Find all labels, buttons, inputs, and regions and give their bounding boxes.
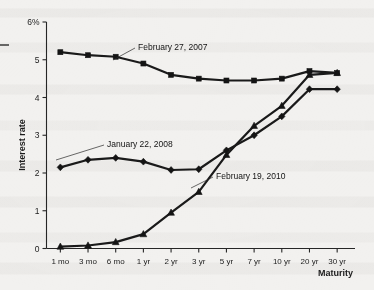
annotation-label-2008: January 22, 2008 — [107, 139, 173, 149]
x-tick-label: 30 yr — [328, 257, 346, 266]
data-point-marker-square — [86, 53, 91, 58]
series-2 — [57, 86, 340, 174]
x-tick-label: 1 yr — [137, 257, 151, 266]
y-tick-label: 5 — [35, 55, 40, 65]
annotation-label-2007: February 27, 2007 — [138, 42, 208, 52]
data-point-marker-diamond — [113, 155, 119, 162]
x-tick-label: 6 mo — [107, 257, 125, 266]
y-tick-label: 0 — [35, 244, 40, 254]
y-tick-label: 2 — [35, 168, 40, 178]
data-point-marker-diamond — [168, 167, 174, 174]
yield-curve-chart: 0123456% 1 mo3 mo6 mo1 yr2 yr3 yr5 yr7 y… — [0, 0, 374, 290]
x-tick-label: 2 yr — [164, 257, 178, 266]
y-axis-tick-labels: 0123456% — [27, 17, 40, 254]
y-tick-label: 4 — [35, 93, 40, 103]
x-axis-tick-labels: 1 mo3 mo6 mo1 yr2 yr3 yr5 yr7 yr10 yr20 … — [51, 257, 346, 266]
x-tick-label: 3 mo — [79, 257, 97, 266]
x-tick-label: 3 yr — [192, 257, 206, 266]
x-axis-title: Maturity — [318, 268, 353, 278]
x-tick-label: 5 yr — [220, 257, 234, 266]
x-tick-label: 1 mo — [51, 257, 69, 266]
data-point-marker-square — [224, 78, 229, 83]
x-tick-label: 10 yr — [273, 257, 291, 266]
data-point-marker-square — [169, 72, 174, 77]
x-tick-label: 20 yr — [301, 257, 319, 266]
series-layer — [57, 50, 341, 250]
data-point-marker-diamond — [334, 86, 340, 93]
x-tick-label: 7 yr — [247, 257, 261, 266]
leader-line-2008 — [56, 145, 104, 160]
scan-edge-artifact — [0, 44, 9, 46]
data-point-marker-diamond — [140, 158, 146, 165]
y-tick-label: 1 — [35, 206, 40, 216]
annotation-leaders — [56, 48, 213, 188]
y-tick-label: 3 — [35, 130, 40, 140]
data-point-marker-square — [252, 78, 257, 83]
data-point-marker-square — [58, 50, 63, 55]
data-point-marker-square — [141, 61, 146, 66]
chart-svg: 0123456% 1 mo3 mo6 mo1 yr2 yr3 yr5 yr7 y… — [0, 0, 374, 290]
data-point-marker-square — [196, 76, 201, 81]
annotation-label-2010: February 19, 2010 — [216, 171, 286, 181]
x-axis-ticks — [60, 249, 337, 253]
series-1 — [58, 50, 340, 83]
series-line-path — [60, 89, 337, 170]
data-point-marker-diamond — [57, 164, 63, 171]
data-point-marker-square — [279, 76, 284, 81]
y-tick-label: 6% — [27, 17, 40, 27]
y-axis-title: Interest rate — [17, 119, 27, 171]
y-axis-ticks — [43, 22, 47, 249]
data-point-marker-diamond — [85, 156, 91, 163]
